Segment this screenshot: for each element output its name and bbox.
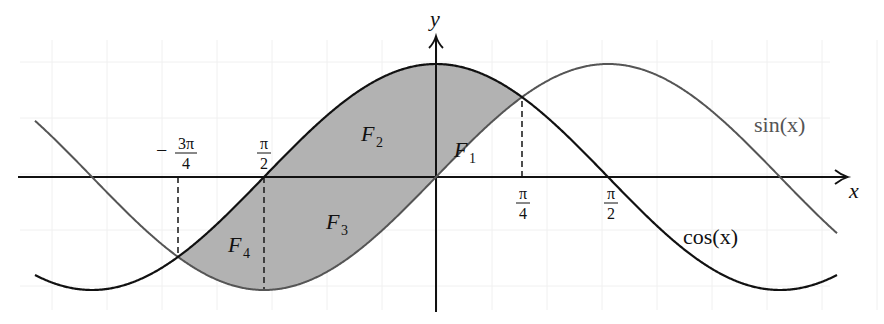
svg-text:F: F	[227, 232, 242, 257]
svg-text:2: 2	[376, 135, 383, 150]
sin-curve-label: sin(x)	[754, 112, 805, 137]
svg-text:2: 2	[607, 205, 615, 222]
svg-text:3π: 3π	[178, 135, 194, 152]
svg-text:4: 4	[519, 205, 527, 222]
x-axis-label: x	[848, 178, 859, 203]
svg-text:F: F	[453, 137, 468, 162]
svg-text:−: −	[156, 139, 167, 161]
svg-text:π: π	[607, 185, 615, 202]
tick-label-pi-2-right: π 2	[604, 185, 618, 222]
svg-text:1: 1	[469, 151, 476, 166]
tick-label-pi-2-left: π 2	[257, 135, 271, 172]
sin-cos-area-figure: x y sin(x) cos(x) F 1 F 2 F 3 F 4 − 3π 4…	[0, 0, 884, 324]
svg-text:π: π	[260, 135, 268, 152]
svg-text:4: 4	[243, 246, 250, 261]
svg-text:3: 3	[341, 223, 348, 238]
tick-label-pi-4: π 4	[516, 185, 530, 222]
svg-text:F: F	[360, 121, 375, 146]
svg-text:2: 2	[260, 155, 268, 172]
svg-text:F: F	[325, 209, 340, 234]
y-axis-label: y	[428, 6, 440, 31]
svg-text:4: 4	[182, 155, 190, 172]
cos-curve-label: cos(x)	[683, 224, 738, 249]
svg-text:π: π	[519, 185, 527, 202]
